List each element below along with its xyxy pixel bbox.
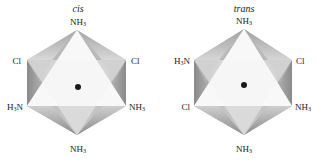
cis-isomer-panel: cis NH3 Cl Cl H3N NH3 NH3 (0, 0, 158, 163)
cis-title: cis (72, 3, 83, 14)
trans-title: trans (234, 3, 255, 14)
ligand-upper-right: Cl (296, 56, 305, 66)
ligand-bottom: NH3 (70, 144, 86, 155)
metal-center-dot (241, 82, 247, 88)
ligand-upper-right: Cl (131, 56, 140, 66)
ligand-bottom: NH3 (236, 144, 252, 155)
ligand-top: NH3 (70, 17, 86, 28)
ligand-upper-left: Cl (12, 56, 21, 66)
ligand-lower-left: Cl (181, 102, 190, 112)
ligand-lower-left: H3N (7, 102, 23, 113)
ligand-upper-left: H3N (174, 56, 190, 67)
ligand-lower-right: NH3 (295, 102, 311, 113)
metal-center-dot (75, 84, 81, 90)
trans-isomer-panel: trans NH3 H3N Cl Cl NH3 NH3 (158, 0, 316, 163)
ligand-top: NH3 (236, 16, 252, 27)
ligand-lower-right: NH3 (129, 102, 145, 113)
